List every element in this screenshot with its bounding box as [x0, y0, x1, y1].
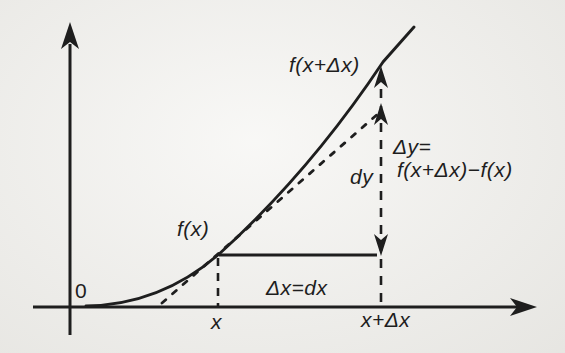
- dy-label: dy: [350, 166, 373, 187]
- down-arrow-icon: [374, 234, 388, 256]
- delta-x-equals-dx-label: Δx=dx: [266, 277, 328, 298]
- f-of-x-plus-dx-label: f(x+Δx): [289, 54, 360, 75]
- delta-y-expansion-label: f(x+Δx)−f(x): [397, 159, 513, 180]
- x-tick-label: x: [211, 311, 222, 332]
- origin-label: 0: [75, 280, 87, 301]
- tangent-line: [162, 112, 380, 303]
- delta-y-equals-label: Δy=: [393, 136, 431, 157]
- x-plus-dx-tick-label: x+Δx: [361, 309, 410, 330]
- delta-y-arrow-icon: [374, 66, 388, 88]
- differential-diagram: 0 f(x) f(x+Δx) Δy= f(x+Δx)−f(x) dy Δx=dx…: [0, 0, 565, 353]
- f-of-x-label: f(x): [177, 218, 209, 239]
